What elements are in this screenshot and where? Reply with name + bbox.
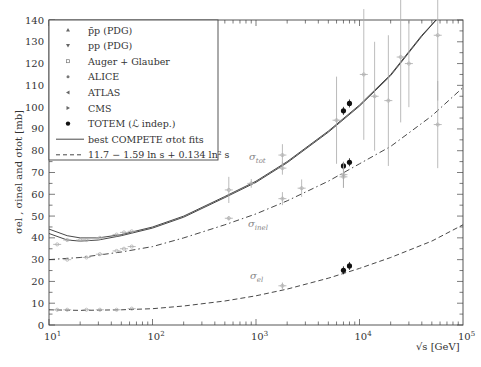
cross-section-chart: 101102103104105 010203040506070809010011… bbox=[0, 0, 481, 367]
x-tick-label: 105 bbox=[458, 330, 475, 342]
y-tick-label: 140 bbox=[25, 15, 44, 26]
y-tick-label: 100 bbox=[25, 102, 44, 113]
curve-label: σel bbox=[250, 270, 263, 284]
y-tick-label: 120 bbox=[25, 58, 44, 69]
x-tick-label: 104 bbox=[355, 330, 373, 342]
y-tick-label: 70 bbox=[31, 167, 44, 178]
curve-labels: σtotσinelσel bbox=[248, 151, 268, 284]
x-tick-label: 103 bbox=[251, 330, 268, 342]
x-axis-tick-labels: 101102103104105 bbox=[44, 330, 475, 342]
legend-entry: TOTEM (ℒ indep.) bbox=[88, 118, 176, 129]
y-tick-label: 30 bbox=[31, 254, 44, 265]
y-tick-label: 40 bbox=[31, 232, 44, 243]
y-axis-title: σel , σinel and σtot [mb] bbox=[13, 110, 24, 234]
legend-entry: best COMPETE σtot fits bbox=[88, 134, 204, 145]
x-tick-label: 101 bbox=[44, 330, 61, 342]
curve-label: σinel bbox=[248, 218, 268, 232]
legend-entry: ALICE bbox=[87, 71, 119, 82]
y-tick-label: 90 bbox=[31, 123, 44, 134]
curve-label: σtot bbox=[249, 151, 266, 165]
y-tick-label: 20 bbox=[31, 276, 44, 287]
y-axis-tick-labels: 0102030405060708090100110120130140 bbox=[25, 15, 44, 331]
y-tick-label: 50 bbox=[31, 211, 44, 222]
legend-entry: ATLAS bbox=[87, 87, 120, 98]
y-tick-label: 0 bbox=[38, 320, 44, 331]
legend-entry: 11.7 − 1.59 ln s + 0.134 ln² s bbox=[88, 149, 230, 160]
y-tick-label: 110 bbox=[25, 80, 44, 91]
legend-entry: pp (PDG) bbox=[88, 40, 132, 51]
x-axis-title: √s [GeV] bbox=[416, 341, 460, 352]
y-tick-label: 80 bbox=[31, 145, 44, 156]
legend: p̄p (PDG)pp (PDG)Auger + GlauberALICEATL… bbox=[49, 20, 230, 160]
y-tick-label: 10 bbox=[31, 298, 44, 309]
legend-entry: Auger + Glauber bbox=[87, 56, 170, 67]
legend-entry: p̄p (PDG) bbox=[88, 25, 132, 36]
legend-entry: CMS bbox=[88, 103, 112, 114]
x-tick-label: 102 bbox=[148, 330, 165, 342]
y-tick-label: 60 bbox=[31, 189, 44, 200]
y-tick-label: 130 bbox=[25, 36, 44, 47]
